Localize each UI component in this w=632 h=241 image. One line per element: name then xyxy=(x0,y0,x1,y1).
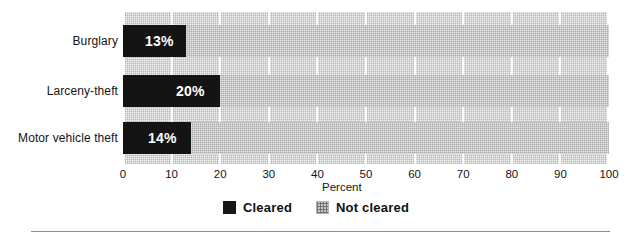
x-tick-50: 50 xyxy=(346,168,386,180)
x-tick-10: 10 xyxy=(152,168,192,180)
bar-segment-not-cleared xyxy=(186,25,609,57)
legend-label-cleared: Cleared xyxy=(243,200,292,215)
chart-legend: Cleared Not cleared xyxy=(0,200,632,215)
x-tick-60: 60 xyxy=(395,168,435,180)
category-label-larceny-theft: Larceny-theft xyxy=(0,85,118,97)
x-tick-0: 0 xyxy=(103,168,143,180)
bar-segment-cleared xyxy=(123,75,220,107)
x-tick-100: 100 xyxy=(589,168,629,180)
x-tick-80: 80 xyxy=(492,168,532,180)
x-tick-70: 70 xyxy=(443,168,483,180)
x-tick-40: 40 xyxy=(297,168,337,180)
legend-label-not-cleared: Not cleared xyxy=(336,200,409,215)
stacked-bar-chart: Burglary Larceny-theft Motor vehicle the… xyxy=(0,0,632,241)
bar-value-label: 14% xyxy=(148,130,177,146)
bar-row: 20% xyxy=(123,75,609,107)
bar-segment-not-cleared xyxy=(191,122,609,154)
bar-row: 14% xyxy=(123,122,609,154)
x-tick-20: 20 xyxy=(200,168,240,180)
bar-value-label: 20% xyxy=(176,83,205,99)
x-axis-title: Percent xyxy=(322,181,362,193)
x-tick-90: 90 xyxy=(540,168,580,180)
x-tick-30: 30 xyxy=(249,168,289,180)
legend-swatch-not-cleared-icon xyxy=(316,201,329,214)
legend-item-not-cleared: Not cleared xyxy=(316,200,409,215)
category-label-burglary: Burglary xyxy=(0,35,118,47)
legend-swatch-cleared-icon xyxy=(223,201,236,214)
bar-segment-not-cleared xyxy=(220,75,609,107)
bar-row: 13% xyxy=(123,25,609,57)
category-label-motor-vehicle-theft: Motor vehicle theft xyxy=(0,132,118,144)
bar-value-label: 13% xyxy=(145,33,174,49)
legend-item-cleared: Cleared xyxy=(223,200,292,215)
plot-area: 13% 20% 14% xyxy=(123,12,609,164)
bottom-divider xyxy=(31,231,610,232)
